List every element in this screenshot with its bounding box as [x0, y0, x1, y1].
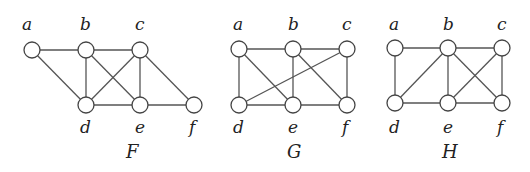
- node-b: [78, 42, 94, 58]
- node-c: [339, 41, 355, 57]
- node-e: [285, 97, 301, 113]
- node-label: d: [233, 117, 244, 137]
- node-label: a: [22, 14, 32, 34]
- node-b: [440, 40, 456, 56]
- graph-name-label: G: [287, 141, 301, 162]
- node-a: [24, 42, 40, 58]
- node-f: [186, 97, 202, 113]
- node-d: [78, 97, 94, 113]
- node-label: c: [497, 14, 507, 34]
- graph-name-label: F: [125, 141, 140, 162]
- node-f: [494, 95, 510, 111]
- node-c: [132, 42, 148, 58]
- node-label: c: [135, 14, 145, 34]
- node-label: b: [288, 14, 299, 34]
- node-label: d: [389, 117, 400, 137]
- node-e: [440, 95, 456, 111]
- node-d: [387, 95, 403, 111]
- node-b: [285, 41, 301, 57]
- node-label: d: [80, 117, 91, 137]
- node-d: [231, 97, 247, 113]
- graph-name-label: H: [441, 141, 458, 162]
- node-label: f: [495, 117, 506, 137]
- node-label: e: [135, 117, 145, 137]
- node-a: [387, 40, 403, 56]
- node-a: [231, 41, 247, 57]
- graph-H: abcdefH: [387, 14, 510, 162]
- node-label: b: [443, 14, 454, 34]
- edge-b-f: [293, 49, 347, 105]
- node-e: [132, 97, 148, 113]
- node-label: e: [288, 117, 298, 137]
- graph-F: abcdefF: [22, 14, 202, 162]
- node-label: f: [187, 117, 198, 137]
- node-f: [339, 97, 355, 113]
- graph-diagram: abcdefFabcdefGabcdefH: [0, 0, 530, 172]
- graphs-svg: abcdefFabcdefGabcdefH: [0, 0, 530, 172]
- node-label: a: [389, 14, 399, 34]
- edge-a-d: [32, 50, 86, 105]
- graph-G: abcdefG: [231, 14, 355, 162]
- node-label: b: [80, 14, 91, 34]
- edge-a-e: [239, 49, 293, 105]
- node-label: f: [340, 117, 351, 137]
- node-label: e: [443, 117, 453, 137]
- node-c: [494, 40, 510, 56]
- node-label: c: [342, 14, 352, 34]
- node-label: a: [233, 14, 243, 34]
- edge-b-d: [395, 48, 448, 103]
- edge-c-f: [140, 50, 194, 105]
